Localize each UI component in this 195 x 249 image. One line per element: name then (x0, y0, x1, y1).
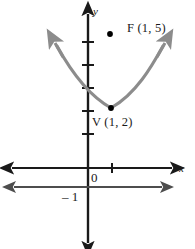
focus-label: F (1, 5) (127, 22, 166, 35)
parabola-figure: y x 0 – 1 F (1, 5) V (1, 2) (0, 0, 195, 249)
directrix-label: – 1 (62, 190, 78, 203)
y-axis-label: y (93, 6, 98, 17)
parabola-curve (55, 43, 165, 108)
focus-point-dot (107, 31, 113, 37)
origin-label: 0 (91, 171, 98, 184)
x-axis-label: x (179, 163, 184, 174)
vertex-label: V (1, 2) (92, 116, 133, 129)
vertex-point-dot (108, 105, 114, 111)
